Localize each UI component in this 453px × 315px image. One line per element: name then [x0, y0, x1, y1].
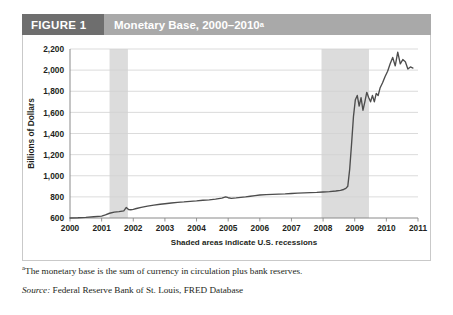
x-axis-tick-label: 2008	[314, 223, 333, 233]
figure-title-text: Monetary Base, 2000–2010	[114, 19, 260, 31]
y-axis-tick-label: 1,400	[43, 129, 64, 139]
figure-number-tag: FIGURE 1	[22, 14, 104, 35]
footnote-source-text: Federal Reserve Bank of St. Louis, FRED …	[50, 285, 243, 295]
y-axis-tick-label: 2,000	[43, 65, 64, 75]
x-axis-tick-label: 2001	[92, 223, 111, 233]
x-axis-tick-label: 2000	[61, 223, 80, 233]
y-axis-tick-label: 1,200	[43, 150, 64, 160]
figure-number-label: FIGURE 1	[31, 19, 86, 31]
recession-annotation: Shaded areas indicate U.S. recessions	[171, 238, 318, 247]
y-axis-tick-label: 1,000	[43, 171, 64, 181]
x-axis-tick-label: 2007	[282, 223, 301, 233]
footnote-source-label: Source:	[22, 285, 50, 295]
x-axis-tick-label: 2006	[251, 223, 270, 233]
x-axis-tick-label: 2003	[156, 223, 175, 233]
x-axis-tick-label: 2004	[187, 223, 206, 233]
monetary-base-line-chart: 6008001,0001,2001,4001,6001,8002,0002,20…	[23, 35, 430, 260]
x-axis-tick-label: 2005	[219, 223, 238, 233]
x-axis-tick-label: 2011	[409, 223, 427, 233]
x-axis-tick-label: 2010	[377, 223, 396, 233]
y-axis-title: Billions of Dollars	[26, 98, 36, 169]
figure-title-band: Monetary Base, 2000–2010a	[104, 14, 431, 35]
x-axis-tick-label: 2009	[345, 223, 364, 233]
footnote-source: Source: Federal Reserve Bank of St. Loui…	[22, 285, 437, 295]
footnote-a-text: The monetary base is the sum of currency…	[25, 266, 302, 276]
figure-container: FIGURE 1 Monetary Base, 2000–2010a 60080…	[0, 0, 453, 315]
y-axis-tick-label: 1,800	[43, 86, 64, 96]
y-axis-tick-label: 800	[50, 192, 64, 202]
x-axis-tick-label: 2002	[124, 223, 143, 233]
chart-area: 6008001,0001,2001,4001,6001,8002,0002,20…	[22, 35, 431, 261]
footnote-a: aThe monetary base is the sum of currenc…	[22, 266, 437, 278]
figure-header: FIGURE 1 Monetary Base, 2000–2010a	[22, 14, 431, 35]
y-axis-tick-label: 2,200	[43, 44, 64, 54]
y-axis-tick-label: 600	[50, 213, 64, 223]
figure-footnotes: aThe monetary base is the sum of currenc…	[22, 266, 437, 295]
y-axis-tick-label: 1,600	[43, 108, 64, 118]
